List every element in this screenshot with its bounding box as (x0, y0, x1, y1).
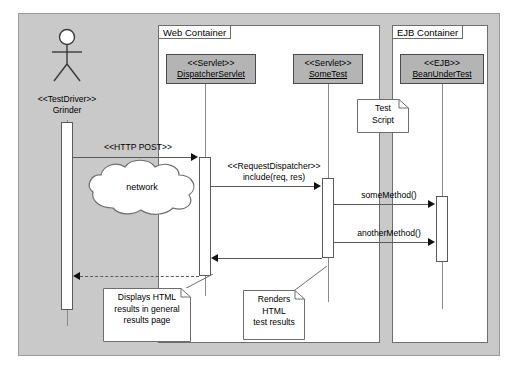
some-test-stereotype: <<Servlet>> (305, 58, 352, 68)
message-arrowhead-return-to-actor (73, 272, 80, 280)
classifier-bean-under-test: <<EJB>> BeanUnderTest (400, 54, 484, 84)
note-displays-html-line1: Displays HTML (118, 292, 176, 302)
message-label-some-method: someMethod() (334, 190, 444, 201)
message-label-http-post: <<HTTP POST>> (73, 142, 203, 153)
classifier-some-test: <<Servlet>> SomeTest (293, 54, 363, 84)
network-cloud-label: network (83, 182, 201, 192)
message-line-return-to-dispatcher (218, 258, 322, 259)
activation-some-test (322, 178, 334, 258)
bean-under-test-stereotype: <<EJB>> (424, 58, 460, 68)
note-displays-html-line2: results in general (114, 304, 179, 314)
message-arrowhead-http-post (191, 153, 198, 161)
note-renders-html-line2: HTML (262, 306, 285, 316)
message-label-another-method: anotherMethod() (334, 228, 444, 239)
dispatcher-servlet-stereotype: <<Servlet>> (188, 58, 235, 68)
ejb-container-label: EJB Container (392, 25, 463, 39)
activation-actor (61, 122, 73, 310)
message-line-request-dispatcher (211, 186, 314, 187)
note-test-script: Test Script (357, 99, 409, 133)
note-renders-html: Renders HTML test results (243, 290, 305, 340)
message-arrowhead-some-method (428, 200, 435, 208)
sequence-diagram-canvas: Web Container EJB Container <<TestDriver… (0, 0, 516, 372)
actor-name: Grinder (17, 105, 117, 116)
message-arrowhead-another-method (428, 238, 435, 246)
note-anchor-renders-html (295, 266, 329, 292)
note-test-script-line1: Test (375, 103, 391, 113)
message-arrowhead-return-to-dispatcher (211, 254, 218, 262)
note-renders-html-line1: Renders (258, 294, 290, 304)
message-label-request-dispatcher-line1: <<RequestDispatcher>> (204, 161, 344, 172)
actor-stereotype: <<TestDriver>> (17, 94, 117, 105)
web-container-label: Web Container (158, 25, 231, 39)
note-renders-html-line3: test results (253, 317, 295, 327)
note-displays-html: Displays HTML results in general results… (103, 288, 191, 342)
message-line-another-method (334, 242, 428, 243)
message-arrowhead-request-dispatcher (314, 182, 321, 190)
message-line-some-method (334, 204, 428, 205)
note-displays-html-line3: results page (124, 315, 171, 325)
bean-under-test-name: BeanUnderTest (412, 69, 471, 79)
message-label-request-dispatcher-line2: include(req, res) (204, 172, 344, 183)
actor-icon (45, 28, 89, 88)
some-test-name: SomeTest (309, 69, 347, 79)
note-test-script-line2: Script (372, 115, 394, 125)
classifier-dispatcher-servlet: <<Servlet>> DispatcherServlet (166, 54, 256, 84)
dispatcher-servlet-name: DispatcherServlet (177, 69, 245, 79)
